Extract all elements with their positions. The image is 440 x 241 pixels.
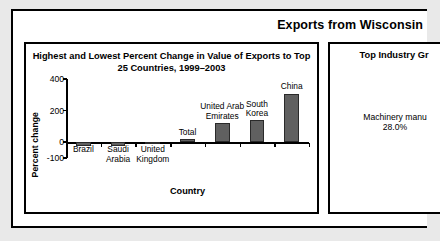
- x-axis-line: [66, 142, 309, 144]
- chart-bar: [215, 123, 230, 142]
- industry-entry-value: 28.0%: [350, 122, 440, 132]
- chart-bar: [284, 94, 299, 142]
- document-page: Exports from Wisconsin Highest and Lowes…: [11, 9, 427, 228]
- chart-title: Highest and Lowest Percent Change in Val…: [32, 50, 311, 74]
- y-axis-tick-mark: [63, 78, 67, 80]
- exports-bar-chart-panel: Highest and Lowest Percent Change in Val…: [24, 42, 319, 214]
- y-axis-tick-label: 400: [50, 74, 64, 84]
- chart-plot-area: Percent change 4002000-100 Country Brazi…: [26, 76, 321, 216]
- x-axis-tick-mark: [240, 143, 241, 147]
- y-axis-label-text: Percent change: [30, 112, 40, 177]
- bar-category-label: South Korea: [232, 100, 283, 119]
- chart-bar: [180, 139, 195, 142]
- industry-panel-body: Machinery manu 28.0%: [330, 112, 440, 132]
- bar-category-label: China: [266, 82, 317, 91]
- x-axis-tick-mark: [309, 143, 310, 147]
- bar-category-label: United Kingdom: [127, 145, 178, 164]
- y-axis-tick-mark: [63, 157, 67, 159]
- y-axis-tick-mark: [63, 110, 67, 112]
- page-title: Exports from Wisconsin: [277, 18, 423, 32]
- x-axis-label: Country: [66, 186, 309, 196]
- top-industry-panel: Top Industry Gr Machinery manu 28.0%: [328, 42, 440, 214]
- chart-bar: [250, 120, 265, 142]
- industry-entry-name: Machinery manu: [350, 112, 440, 122]
- y-axis-label: Percent change: [30, 100, 40, 112]
- industry-panel-title: Top Industry Gr: [330, 50, 440, 60]
- x-axis-tick-mark: [205, 143, 206, 147]
- x-axis-tick-mark: [274, 143, 275, 147]
- page-header: Exports from Wisconsin: [13, 15, 427, 35]
- y-axis-tick-labels: 4002000-100: [40, 76, 64, 176]
- y-axis-tick-label: 200: [50, 106, 64, 116]
- bar-category-label: Total: [162, 128, 213, 137]
